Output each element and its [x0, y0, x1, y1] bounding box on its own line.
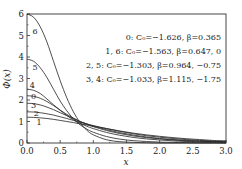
legend: 0: C₀=−1.626, β=0.365 1, 6: C₀=−1.563, β… — [86, 33, 221, 84]
y-tick-label: 5 — [19, 31, 24, 41]
x-tick-label: 1.0 — [87, 146, 101, 156]
curve-label-5: 5 — [32, 63, 37, 72]
y-axis-title: Φ(x) — [2, 69, 12, 89]
x-tick-label: 2.5 — [186, 146, 200, 156]
curve-label-1: 1 — [36, 118, 41, 127]
curve-label-4: 4 — [30, 81, 35, 90]
series-line-0 — [27, 96, 226, 142]
x-axis-title: x — [123, 157, 128, 167]
chart: 0.00.51.01.52.02.53.00123456 6540321 x Φ… — [0, 0, 242, 169]
y-tick-label: 1 — [19, 117, 24, 127]
legend-entry-0: 0: C₀=−1.626, β=0.365 — [126, 33, 221, 42]
y-tick-label: 2 — [19, 95, 24, 105]
x-tick-label: 2.0 — [153, 146, 167, 156]
curve-label-6: 6 — [32, 27, 37, 36]
x-tick-label: 1.5 — [120, 146, 134, 156]
y-tick-label: 6 — [19, 9, 24, 19]
y-tick-label: 3 — [19, 74, 24, 84]
legend-entry-1: 1, 6: C₀=−1.563, β=0.647, 0 — [105, 47, 221, 56]
x-tick-label: 3.0 — [219, 146, 233, 156]
y-tick-label: 4 — [19, 52, 24, 62]
series-line-1 — [27, 117, 226, 141]
legend-entry-3: 3, 4: C₀=−1.033, β=1.115, −1.75 — [86, 75, 221, 84]
y-tick-label: 0 — [19, 138, 24, 148]
series-line-2 — [27, 112, 226, 142]
legend-entry-2: 2, 5: C₀=−1.303, β=0.964, −0.75 — [86, 61, 221, 70]
x-tick-label: 0.5 — [53, 146, 67, 156]
